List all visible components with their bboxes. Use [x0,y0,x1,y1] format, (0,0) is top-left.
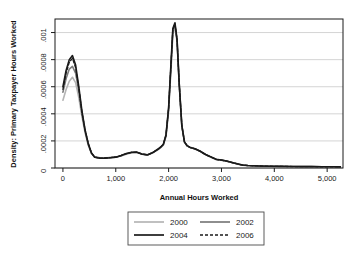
y-axis-ticks: 0.0002.0004.0006.0008.001 [39,28,55,173]
y-tick-label-3: .0006 [39,80,48,99]
x-tick-label-4: 4,000 [265,174,284,183]
chart-legend: 2000200220042006 [128,212,264,245]
y-tick-label-5: .001 [39,28,48,43]
density-chart-figure: 01,0002,0003,0004,0005,000 0.0002.0004.0… [0,0,362,257]
x-tick-label-3: 3,000 [212,174,231,183]
series-line-2000 [63,26,340,166]
y-tick-label-1: .0002 [39,135,48,154]
x-tick-label-5: 5,000 [318,174,337,183]
series-lines [63,23,340,167]
x-tick-label-0: 0 [61,174,65,183]
y-tick-label-2: .0004 [39,107,48,126]
legend-label-2004: 2004 [170,231,188,240]
legend-border [128,212,264,245]
series-line-2004 [63,23,340,167]
x-axis-ticks: 01,0002,0003,0004,0005,000 [61,168,337,183]
legend-label-2002: 2002 [236,218,254,227]
series-line-2006 [63,24,340,167]
y-tick-label-4: .0008 [39,53,48,72]
x-axis-title: Annual Hours Worked [160,193,239,202]
x-tick-label-1: 1,000 [106,174,125,183]
legend-label-2006: 2006 [236,231,254,240]
series-line-2002 [63,24,340,167]
plot-frame [55,19,343,168]
y-tick-label-0: 0 [39,169,48,173]
plot-border [55,19,343,168]
legend-label-2000: 2000 [170,218,188,227]
y-axis-title: Density: Primary Taxpayer Hours Worked [9,20,18,168]
gridlines [55,33,343,168]
chart-canvas: 01,0002,0003,0004,0005,000 0.0002.0004.0… [0,0,362,257]
x-tick-label-2: 2,000 [159,174,178,183]
